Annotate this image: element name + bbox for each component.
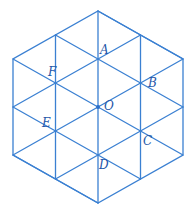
label-f: F: [47, 65, 57, 79]
diag-dr-3: [13, 107, 141, 179]
label-a: A: [99, 43, 109, 57]
label-c: C: [143, 134, 152, 148]
diag-ur-3: [56, 107, 184, 179]
label-e: E: [41, 116, 51, 130]
diag-dr-1: [56, 35, 184, 107]
label-d: D: [98, 158, 109, 172]
label-o: O: [104, 99, 114, 113]
label-b: B: [147, 76, 157, 90]
hexagon-diagram: A B C D E F O: [0, 0, 195, 218]
diag-ur-1: [13, 35, 141, 107]
center-point-o: [96, 105, 100, 109]
